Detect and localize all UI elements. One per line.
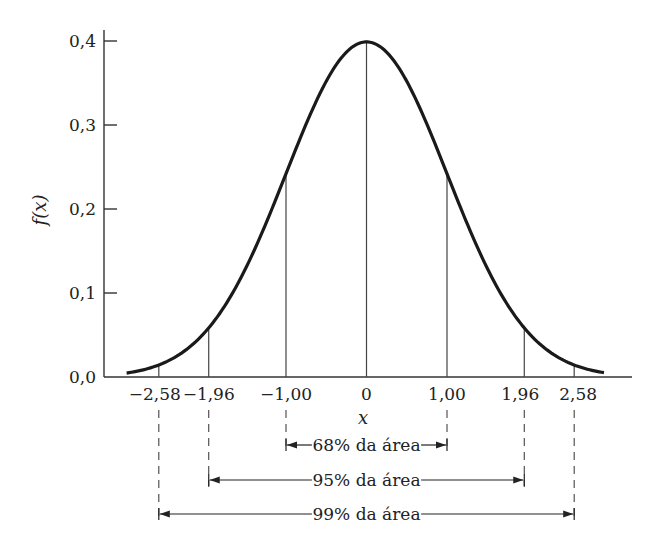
arrow-left-icon <box>210 477 220 484</box>
area-annotations: 68% da área95% da área99% da área <box>159 435 574 524</box>
y-tick-label: 0,0 <box>69 367 96 387</box>
x-tick-label: −2,58 <box>129 384 181 404</box>
y-axis-title: f(x) <box>29 195 50 228</box>
y-tick-label: 0,4 <box>69 31 96 51</box>
x-axis-title: x <box>358 407 368 428</box>
x-tick-label: −1,96 <box>183 384 235 404</box>
x-tick-label: −1,00 <box>260 384 312 404</box>
arrow-right-icon <box>563 511 573 518</box>
arrow-left-icon <box>287 442 297 449</box>
area-annotation-label: 68% da área <box>312 435 420 455</box>
y-tick-label: 0,3 <box>69 115 96 135</box>
arrow-left-icon <box>160 511 170 518</box>
arrow-right-icon <box>436 442 446 449</box>
x-tick-label: 1,00 <box>428 384 466 404</box>
area-annotation-label: 99% da área <box>312 504 420 524</box>
y-ticks: 0,00,10,20,30,4 <box>69 31 117 387</box>
vertical-markers <box>159 42 574 377</box>
density-curve <box>127 42 604 373</box>
x-tick-label: 0 <box>361 384 372 404</box>
axes <box>104 30 632 377</box>
area-annotation-label: 95% da área <box>312 470 420 490</box>
x-tick-label: 2,58 <box>559 384 597 404</box>
y-tick-label: 0,1 <box>69 283 96 303</box>
normal-distribution-chart: 0,00,10,20,30,4 −2,58−1,96−1,0001,001,96… <box>0 0 660 547</box>
y-tick-label: 0,2 <box>69 199 96 219</box>
x-tick-labels: −2,58−1,96−1,0001,001,962,58 <box>129 384 597 404</box>
arrow-right-icon <box>513 477 523 484</box>
x-tick-label: 1,96 <box>501 384 539 404</box>
